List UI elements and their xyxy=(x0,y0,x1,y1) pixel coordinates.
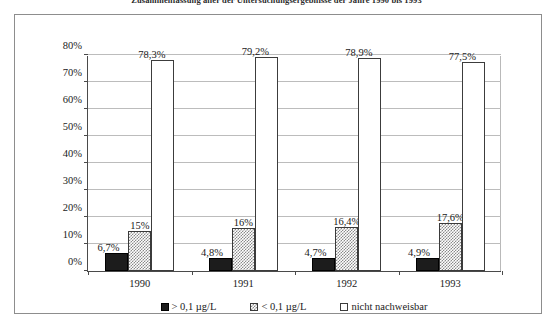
chart-frame: 0%10%20%30%40%50%60%70%80% 6,7%15%78,3%4… xyxy=(14,14,542,314)
chart-title: Zusammenfassung aller der Untersuchungse… xyxy=(0,0,553,7)
legend-swatch-icon xyxy=(250,303,258,311)
bar-value-label: 4,9% xyxy=(408,247,430,258)
plot-area: 0%10%20%30%40%50%60%70%80% 6,7%15%78,3%4… xyxy=(87,56,501,272)
legend-label: < 0,1 µg/L xyxy=(261,301,306,312)
x-axis-tick-mark xyxy=(88,271,89,275)
plot-right-border xyxy=(500,56,501,271)
y-axis-tick-mark xyxy=(84,216,88,217)
bar: 6,7% xyxy=(105,253,128,271)
y-axis-tick-mark xyxy=(84,81,88,82)
y-axis-tick-label: 60% xyxy=(63,93,82,104)
y-axis-tick-label: 70% xyxy=(63,66,82,77)
bar: 16,4% xyxy=(335,227,358,271)
y-axis-tick-mark xyxy=(84,243,88,244)
bar-value-label: 77,5% xyxy=(449,51,476,62)
x-axis-tick-mark xyxy=(399,271,400,275)
x-axis-category-label: 1993 xyxy=(440,278,461,289)
bar: 77,5% xyxy=(462,62,485,271)
chart-legend: > 0,1 µg/L< 0,1 µg/Lnicht nachweisbar xyxy=(87,301,501,312)
y-axis-tick-label: 20% xyxy=(63,201,82,212)
bar-value-label: 78,9% xyxy=(345,47,372,58)
bar: 78,9% xyxy=(358,58,381,271)
y-axis-tick-label: 50% xyxy=(63,120,82,131)
bar: 4,9% xyxy=(416,258,439,271)
y-axis-tick-label: 80% xyxy=(63,39,82,50)
y-axis-tick-mark xyxy=(84,189,88,190)
bar-value-label: 17,6% xyxy=(437,212,464,223)
x-axis-tick-mark xyxy=(502,271,503,275)
bar-value-label: 16% xyxy=(234,217,253,228)
y-axis-tick-label: 40% xyxy=(63,147,82,158)
y-axis-tick-label: 10% xyxy=(63,228,82,239)
bar-value-label: 4,7% xyxy=(305,247,327,258)
x-axis-category-label: 1990 xyxy=(129,278,150,289)
bar: 4,8% xyxy=(209,258,232,271)
bar: 78,3% xyxy=(151,60,174,271)
bar: 17,6% xyxy=(439,223,462,271)
legend-item[interactable]: > 0,1 µg/L xyxy=(161,301,217,312)
legend-item[interactable]: < 0,1 µg/L xyxy=(250,301,306,312)
legend-swatch-icon xyxy=(161,303,169,311)
bar: 79,2% xyxy=(255,57,278,271)
x-axis-tick-mark xyxy=(295,271,296,275)
legend-label: nicht nachweisbar xyxy=(351,301,427,312)
bar: 16% xyxy=(232,228,255,271)
bar: 4,7% xyxy=(312,258,335,271)
y-axis-tick-label: 0% xyxy=(68,255,82,266)
y-axis-tick-mark xyxy=(84,108,88,109)
bar-value-label: 78,3% xyxy=(138,49,165,60)
gridline xyxy=(88,81,501,82)
legend-item[interactable]: nicht nachweisbar xyxy=(340,301,427,312)
gridline xyxy=(88,108,501,109)
bar-value-label: 79,2% xyxy=(242,46,269,57)
x-axis-category-label: 1992 xyxy=(336,278,357,289)
bar-value-label: 6,7% xyxy=(98,242,120,253)
gridline xyxy=(88,162,501,163)
bar-value-label: 16,4% xyxy=(333,216,360,227)
bar-value-label: 15% xyxy=(130,220,149,231)
gridline xyxy=(88,189,501,190)
x-axis-category-label: 1991 xyxy=(233,278,254,289)
x-axis-tick-mark xyxy=(192,271,193,275)
bar-value-label: 4,8% xyxy=(201,247,223,258)
y-axis-tick-mark xyxy=(84,135,88,136)
legend-swatch-icon xyxy=(340,303,348,311)
y-axis-tick-mark xyxy=(84,162,88,163)
legend-label: > 0,1 µg/L xyxy=(172,301,217,312)
bar: 15% xyxy=(128,231,151,272)
gridline xyxy=(88,135,501,136)
y-axis-tick-label: 30% xyxy=(63,174,82,185)
y-axis-tick-mark xyxy=(84,54,88,55)
